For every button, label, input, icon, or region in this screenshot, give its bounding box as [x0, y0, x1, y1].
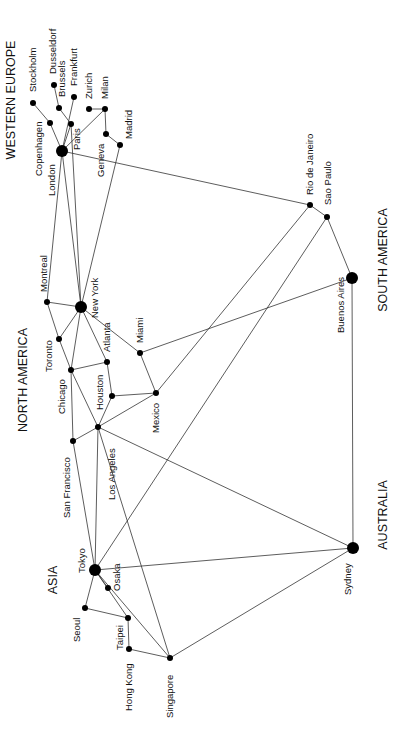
label-miami: Miami [134, 318, 145, 343]
label-singapore: Singapore [164, 675, 175, 718]
label-houston: Houston [94, 375, 105, 410]
label-osaka: Osaka [111, 563, 122, 591]
route-miami-mexico [140, 353, 156, 393]
label-hong_kong: Hong Kong [123, 663, 134, 711]
label-stockholm: Stockholm [27, 48, 38, 92]
label-mexico: Mexico [150, 403, 161, 433]
label-atlanta: Atlanta [101, 322, 112, 352]
label-los_angeles: Los Angeles [106, 448, 117, 500]
node-madrid [117, 142, 123, 148]
node-chicago [68, 367, 74, 373]
region-south_america: SOUTH AMERICA [376, 208, 390, 312]
node-seoul [82, 605, 88, 611]
route-paris-new_york [71, 124, 81, 307]
node-copenhagen [47, 120, 53, 126]
route-new_york-chicago [71, 307, 81, 370]
route-network-diagram: LondonCopenhagenStockholmBrusselsDusseld… [0, 0, 399, 737]
route-paris-brussels [59, 108, 71, 124]
node-zurich [86, 106, 92, 112]
node-taipei [125, 615, 131, 621]
route-london-new_york [62, 151, 81, 307]
node-stockholm [30, 100, 36, 106]
label-paris: Paris [71, 128, 82, 150]
node-sao_paulo [324, 214, 330, 220]
node-frankfurt [71, 94, 77, 100]
route-tokyo-singapore [95, 570, 170, 658]
route-miami-buenos_aires [140, 278, 352, 353]
node-sydney [347, 542, 359, 554]
node-toronto [56, 336, 62, 342]
label-madrid: Madrid [123, 110, 134, 139]
node-geneva [103, 131, 109, 137]
label-seoul: Seoul [71, 618, 82, 642]
node-miami [137, 350, 143, 356]
label-rio_de_janeiro: Rio de Janeiro [304, 134, 315, 195]
label-san_francisco: San Francisco [61, 457, 72, 518]
label-milan: Milan [99, 76, 110, 99]
route-los_angeles-tokyo [95, 427, 98, 570]
route-mexico-rio_de_janeiro [156, 205, 310, 393]
node-los_angeles [95, 424, 101, 430]
route-toronto-chicago [59, 339, 71, 370]
route-mexico-los_angeles [98, 393, 156, 427]
node-houston [109, 393, 115, 399]
node-brussels [56, 105, 62, 111]
route-rio_de_janeiro-sao_paulo [310, 205, 327, 217]
route-buenos_aires-sydney [352, 278, 353, 548]
node-buenos_aires [346, 272, 358, 284]
node-san_francisco [70, 438, 76, 444]
node-atlanta [104, 359, 110, 365]
route-tokyo-sydney [95, 548, 353, 570]
node-montreal [44, 299, 50, 305]
route-los_angeles-san_francisco [73, 427, 98, 441]
label-tokyo: Tokyo [76, 548, 87, 573]
label-toronto: Toronto [43, 340, 54, 372]
route-chicago-san_francisco [71, 370, 73, 441]
route-taipei-hong_kong [128, 618, 129, 649]
route-singapore-sydney [170, 548, 353, 658]
label-new_york: New York [89, 278, 100, 318]
region-north_america: NORTH AMERICA [16, 327, 30, 432]
route-montreal-toronto [47, 302, 59, 339]
route-chicago-atlanta [71, 362, 107, 370]
route-milan-geneva [105, 109, 106, 134]
route-sao_paulo-buenos_aires [327, 217, 352, 278]
route-atlanta-houston [107, 362, 112, 396]
region-asia: ASIA [46, 565, 60, 594]
label-chicago: Chicago [56, 379, 67, 414]
node-milan [102, 106, 108, 112]
node-paris [68, 121, 74, 127]
city-labels: LondonCopenhagenStockholmBrusselsDusseld… [27, 28, 353, 718]
label-buenos_aires: Buenos Aires [335, 277, 346, 333]
node-rio_de_janeiro [307, 202, 313, 208]
node-london [56, 145, 68, 157]
label-frankfurt: Frankfurt [68, 48, 79, 86]
label-copenhagen: Copenhagen [33, 122, 44, 176]
node-tokyo [89, 564, 101, 576]
label-london: London [46, 164, 57, 196]
label-montreal: Montreal [38, 255, 49, 292]
label-sao_paulo: Sao Paulo [322, 161, 333, 205]
route-los_angeles-sydney [98, 427, 353, 548]
node-singapore [167, 655, 173, 661]
route-tokyo-sao_paulo [95, 217, 327, 570]
label-dusseldorf: Dusseldorf [47, 28, 58, 74]
label-taipei: Taipei [114, 625, 125, 650]
route-seoul-taipei [85, 608, 128, 618]
label-geneva: Geneva [95, 143, 106, 177]
route-houston-mexico [112, 393, 156, 396]
node-mexico [153, 390, 159, 396]
node-hong_kong [126, 646, 132, 652]
label-sydney: Sydney [342, 563, 353, 595]
region-western_europe: WESTERN EUROPE [4, 41, 18, 160]
node-new_york [75, 301, 87, 313]
route-copenhagen-stockholm [33, 103, 50, 123]
label-zurich: Zurich [83, 73, 94, 99]
region-australia: AUSTRALIA [376, 480, 390, 550]
